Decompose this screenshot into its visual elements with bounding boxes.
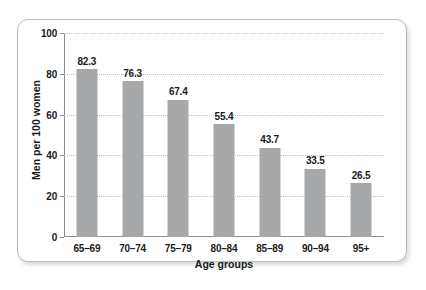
y-tick-label-100: 100: [41, 28, 57, 39]
bar-slot: 55.4 80–84: [201, 33, 247, 237]
bar-value-label: 43.7: [260, 134, 279, 145]
x-axis-title: Age groups: [64, 258, 384, 270]
bar-slot: 33.5 90–94: [293, 33, 339, 237]
bar[interactable]: [122, 81, 143, 237]
y-tick-label-40: 40: [46, 150, 57, 161]
y-axis-title: Men per 100 women: [30, 70, 42, 190]
bar-value-label: 76.3: [123, 68, 142, 79]
x-tick-label: 85–89: [256, 243, 283, 254]
bar[interactable]: [259, 148, 280, 237]
bar-slot: 43.7 85–89: [247, 33, 293, 237]
bar-slot: 76.3 70–74: [110, 33, 156, 237]
bar-value-label: 82.3: [78, 56, 97, 67]
bar-slot: 82.3 65–69: [64, 33, 110, 237]
x-tick-label: 95+: [353, 243, 369, 254]
bar[interactable]: [213, 124, 234, 237]
bar-slot: 67.4 75–79: [155, 33, 201, 237]
y-tick-label-20: 20: [46, 191, 57, 202]
x-tick-label: 90–94: [302, 243, 329, 254]
y-tick-label-0: 0: [52, 232, 57, 243]
y-tick-label-60: 60: [46, 109, 57, 120]
y-tick-0: [60, 237, 64, 238]
bar-value-label: 55.4: [215, 111, 234, 122]
bar-value-label: 33.5: [306, 155, 325, 166]
plot-area: 100 80 60 40 20 0 82.3 65–69 76.3 70–74 …: [64, 33, 384, 237]
bar[interactable]: [76, 69, 97, 237]
x-tick-label: 75–79: [165, 243, 192, 254]
bar[interactable]: [351, 183, 372, 237]
y-tick-label-80: 80: [46, 68, 57, 79]
bar[interactable]: [168, 100, 189, 237]
bar[interactable]: [305, 169, 326, 237]
x-tick-label: 70–74: [119, 243, 146, 254]
x-tick-label: 80–84: [211, 243, 238, 254]
x-tick-label: 65–69: [73, 243, 100, 254]
chart-card: Men per 100 women 100 80 60 40 20 0 82.3…: [17, 19, 407, 262]
bar-value-label: 26.5: [352, 170, 371, 181]
bar-slot: 26.5 95+: [338, 33, 384, 237]
bar-value-label: 67.4: [169, 86, 188, 97]
